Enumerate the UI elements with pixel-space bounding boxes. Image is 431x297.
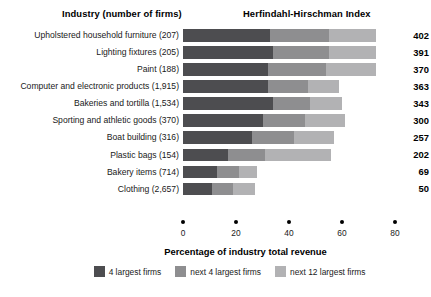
legend-label: next 4 largest firms <box>190 267 261 277</box>
stacked-bar <box>183 114 345 127</box>
bar-segment <box>326 63 376 76</box>
hhi-value: 257 <box>399 132 429 143</box>
hhi-value: 363 <box>399 81 429 92</box>
legend-item: 4 largest firms <box>94 266 162 277</box>
row-label: Bakery items (714) <box>107 167 179 177</box>
bar-segment <box>183 46 273 59</box>
row-label: Boat building (316) <box>107 132 179 142</box>
axis-tick-label: 0 <box>181 228 186 238</box>
axis-tick-dot <box>287 220 291 224</box>
chart-row: Bakeries and tortilla (1,534)343 <box>0 96 431 111</box>
hhi-value: 69 <box>399 166 429 177</box>
legend-item: next 4 largest firms <box>175 266 261 277</box>
chart-row: Boat building (316)257 <box>0 130 431 145</box>
hhi-value: 343 <box>399 98 429 109</box>
stacked-bar <box>183 149 331 162</box>
bar-segment <box>329 46 377 59</box>
row-label: Computer and electronic products (1,915) <box>20 81 179 91</box>
chart-row: Paint (188)370 <box>0 62 431 77</box>
chart-row: Plastic bags (154)202 <box>0 148 431 163</box>
stacked-bar <box>183 80 339 93</box>
stacked-bar <box>183 183 255 196</box>
axis-tick-dot <box>340 220 344 224</box>
legend-swatch <box>175 266 186 277</box>
axis-tick-dot <box>393 220 397 224</box>
bar-segment <box>183 80 268 93</box>
bar-segment <box>252 131 294 144</box>
bar-segment <box>183 63 268 76</box>
bar-segment <box>183 183 212 196</box>
bar-segment <box>294 131 334 144</box>
bar-segment <box>183 114 263 127</box>
hhi-value: 300 <box>399 115 429 126</box>
legend-item: next 12 largest firms <box>275 266 365 277</box>
chart-container: Industry (number of firms) Herfindahl-Hi… <box>0 0 431 297</box>
legend-swatch <box>275 266 286 277</box>
hhi-column-header: Herfindahl-Hirschman Index <box>243 8 371 19</box>
row-label: Upholstered household furniture (207) <box>34 30 179 40</box>
bar-segment <box>239 166 258 179</box>
bar-segment <box>310 97 342 110</box>
x-axis-title: Percentage of industry total revenue <box>0 246 431 257</box>
bar-segment <box>183 97 273 110</box>
bar-segment <box>305 114 345 127</box>
hhi-value: 370 <box>399 64 429 75</box>
bar-segment <box>270 29 328 42</box>
hhi-value: 402 <box>399 30 429 41</box>
row-label: Sporting and athletic goods (370) <box>52 115 179 125</box>
axis-tick-label: 80 <box>390 228 399 238</box>
chart-row: Clothing (2,657)50 <box>0 182 431 197</box>
bar-segment <box>228 149 265 162</box>
hhi-value: 202 <box>399 149 429 160</box>
row-label: Paint (188) <box>137 64 179 74</box>
chart-row: Bakery items (714)69 <box>0 165 431 180</box>
bar-segment <box>268 63 326 76</box>
chart-row: Sporting and athletic goods (370)300 <box>0 113 431 128</box>
hhi-value: 391 <box>399 47 429 58</box>
bar-segment <box>273 46 329 59</box>
stacked-bar <box>183 97 342 110</box>
chart-row: Lighting fixtures (205)391 <box>0 45 431 60</box>
bar-segment <box>308 80 340 93</box>
legend-label: 4 largest firms <box>109 267 162 277</box>
stacked-bar <box>183 29 376 42</box>
row-label: Lighting fixtures (205) <box>96 47 179 57</box>
bar-segment <box>268 80 308 93</box>
stacked-bar <box>183 166 257 179</box>
axis-tick-label: 60 <box>337 228 346 238</box>
bar-segment <box>183 166 217 179</box>
row-label: Plastic bags (154) <box>110 150 179 160</box>
row-label: Clothing (2,657) <box>118 184 179 194</box>
bar-segment <box>273 97 310 110</box>
row-label: Bakeries and tortilla (1,534) <box>74 98 179 108</box>
bar-segment <box>233 183 254 196</box>
stacked-bar <box>183 63 376 76</box>
chart-row: Upholstered household furniture (207)402 <box>0 28 431 43</box>
bar-segment <box>183 149 228 162</box>
bar-segment <box>217 166 238 179</box>
axis-tick-dot <box>181 220 185 224</box>
bar-segment <box>265 149 331 162</box>
axis-tick-label: 20 <box>231 228 240 238</box>
bar-segment <box>183 29 270 42</box>
legend-swatch <box>94 266 105 277</box>
bar-segment <box>329 29 377 42</box>
legend: 4 largest firmsnext 4 largest firmsnext … <box>0 266 431 277</box>
stacked-bar <box>183 46 376 59</box>
bar-segment <box>183 131 252 144</box>
axis-tick-dot <box>234 220 238 224</box>
hhi-value: 50 <box>399 183 429 194</box>
stacked-bar <box>183 131 334 144</box>
bar-rows: Upholstered household furniture (207)402… <box>0 28 431 199</box>
bar-segment <box>263 114 305 127</box>
axis-tick-label: 40 <box>284 228 293 238</box>
industry-column-header: Industry (number of firms) <box>62 8 182 19</box>
legend-label: next 12 largest firms <box>290 267 365 277</box>
bar-segment <box>212 183 233 196</box>
chart-row: Computer and electronic products (1,915)… <box>0 79 431 94</box>
